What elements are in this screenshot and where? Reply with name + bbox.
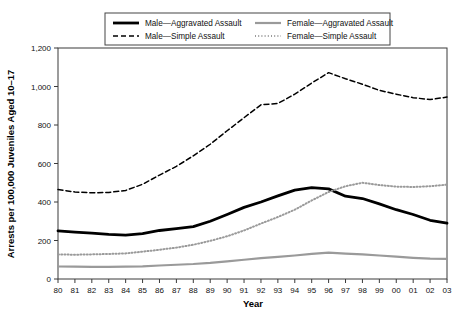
plot-frame	[58, 48, 447, 279]
x-tick-label: 86	[155, 286, 164, 295]
x-tick-label: 94	[290, 286, 299, 295]
y-tick-label: 1,000	[31, 83, 52, 92]
y-tick-label: 400	[38, 198, 52, 207]
x-tick-label: 92	[257, 286, 266, 295]
y-tick-label: 0	[47, 275, 52, 284]
x-tick-label: 96	[324, 286, 333, 295]
y-axis-title: Arrests per 100,000 Juveniles Aged 10–17	[5, 70, 16, 259]
series-line-female-simple-assault	[58, 183, 447, 255]
x-tick-label: 03	[443, 286, 452, 295]
y-tick-label: 200	[38, 237, 52, 246]
x-tick-label: 88	[189, 286, 198, 295]
assault-arrest-rate-line-chart: Male—Aggravated AssaultFemale—Aggravated…	[0, 0, 458, 315]
x-tick-label: 82	[87, 286, 96, 295]
legend-label-female-aggravated-assault: Female—Aggravated Assault	[287, 19, 394, 28]
x-tick-label: 81	[70, 286, 79, 295]
chart-legend: Male—Aggravated AssaultFemale—Aggravated…	[105, 13, 394, 45]
y-tick-label: 800	[38, 121, 52, 130]
series-line-male-aggravated-assault	[58, 188, 447, 236]
y-tick-label: 600	[38, 160, 52, 169]
data-series-group	[58, 73, 447, 267]
series-line-female-aggravated-assault	[58, 253, 447, 267]
x-tick-label: 87	[172, 286, 181, 295]
x-tick-label: 84	[121, 286, 130, 295]
x-axis-ticks: 8081828384858687888990919293949596979899…	[54, 279, 452, 295]
y-axis-ticks: 02004006008001,0001,200	[31, 44, 58, 284]
series-line-male-simple-assault	[58, 73, 447, 193]
x-tick-label: 01	[409, 286, 418, 295]
x-tick-label: 99	[375, 286, 384, 295]
x-tick-label: 83	[104, 286, 113, 295]
x-tick-label: 85	[138, 286, 147, 295]
x-tick-label: 93	[273, 286, 282, 295]
legend-label-male-aggravated-assault: Male—Aggravated Assault	[145, 19, 242, 28]
x-tick-label: 89	[206, 286, 215, 295]
x-tick-label: 91	[240, 286, 249, 295]
y-tick-label: 1,200	[31, 44, 52, 53]
x-tick-label: 80	[54, 286, 63, 295]
x-tick-label: 90	[223, 286, 232, 295]
legend-label-male-simple-assault: Male—Simple Assault	[145, 32, 225, 41]
x-axis-title: Year	[243, 298, 263, 309]
x-tick-label: 02	[426, 286, 435, 295]
x-tick-label: 98	[358, 286, 367, 295]
x-tick-label: 95	[307, 286, 316, 295]
chart-canvas: Male—Aggravated AssaultFemale—Aggravated…	[0, 0, 458, 315]
legend-label-female-simple-assault: Female—Simple Assault	[287, 32, 377, 41]
x-tick-label: 00	[392, 286, 401, 295]
x-tick-label: 97	[341, 286, 350, 295]
